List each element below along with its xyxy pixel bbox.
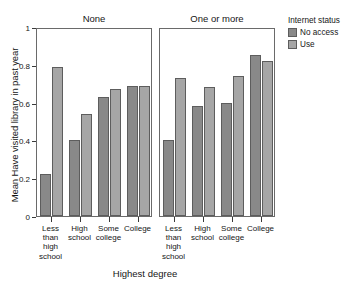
bar-use-1 <box>81 114 92 216</box>
bar-use-2 <box>233 76 244 216</box>
bar-use-1 <box>204 87 215 216</box>
x-axis-tick <box>51 217 52 222</box>
x-axis-title: Highest degree <box>0 268 290 279</box>
bar-no-access-0 <box>40 174 51 216</box>
y-axis-tick-label: 0 <box>26 213 30 222</box>
x-axis-tick <box>203 217 204 222</box>
x-axis-tick <box>138 217 139 222</box>
x-axis-label: Lessthanhighschool <box>159 224 188 261</box>
x-axis-label: College <box>123 224 152 233</box>
x-axis-label: Lessthanhighschool <box>36 224 65 261</box>
y-axis-tick-label: 1 <box>26 24 30 33</box>
bar-no-access-3 <box>127 86 138 216</box>
legend-item-use[interactable]: Use <box>288 39 350 50</box>
bar-use-3 <box>139 86 150 216</box>
bar-no-access-1 <box>192 106 203 216</box>
x-axis-none <box>36 217 152 222</box>
y-axis-tick-label: 0.2 <box>19 175 30 184</box>
x-axis-label: College <box>246 224 275 233</box>
legend-title: Internet status <box>288 16 350 25</box>
legend-label-use: Use <box>300 40 315 49</box>
panel-title-one-or-more: One or more <box>159 12 275 25</box>
y-axis-tick-label: 0.6 <box>19 99 30 108</box>
bar-use-0 <box>52 67 63 216</box>
y-axis-tick-label: 0.4 <box>19 137 30 146</box>
y-axis-title: Mean Have visited library in past year <box>9 30 23 220</box>
x-axis-tick <box>80 217 81 222</box>
x-axis-label: Highschool <box>65 224 94 242</box>
bar-no-access-3 <box>250 55 261 216</box>
chart-figure: Mean Have visited library in past year 0… <box>0 0 350 287</box>
legend-swatch-use <box>288 40 297 49</box>
bar-no-access-2 <box>221 103 232 216</box>
legend-swatch-no-access <box>288 28 297 37</box>
x-axis-labels-one-or-more: LessthanhighschoolHighschoolSomecollegeC… <box>159 224 275 268</box>
bar-use-0 <box>175 78 186 216</box>
x-axis-label: Highschool <box>188 224 217 242</box>
y-axis: 00.20.40.60.81 <box>22 28 36 217</box>
bar-use-2 <box>110 89 121 216</box>
plot-panel-none <box>36 28 152 217</box>
x-axis-tick <box>109 217 110 222</box>
bars-none <box>37 29 151 216</box>
x-axis-label: Somecollege <box>217 224 246 242</box>
x-axis-one-or-more <box>159 217 275 222</box>
bar-no-access-0 <box>163 140 174 216</box>
bar-no-access-2 <box>98 97 109 216</box>
bar-use-3 <box>262 61 273 216</box>
x-axis-tick <box>261 217 262 222</box>
bar-no-access-1 <box>69 140 80 216</box>
legend: Internet status No access Use <box>288 16 350 51</box>
bars-one-or-more <box>160 29 274 216</box>
plot-panel-one-or-more <box>159 28 275 217</box>
x-axis-label: Somecollege <box>94 224 123 242</box>
panel-title-none: None <box>36 12 152 25</box>
y-axis-tick-label: 0.8 <box>19 61 30 70</box>
legend-item-no-access[interactable]: No access <box>288 27 350 38</box>
x-axis-labels-none: LessthanhighschoolHighschoolSomecollegeC… <box>36 224 152 268</box>
x-axis-tick <box>174 217 175 222</box>
x-axis-tick <box>232 217 233 222</box>
legend-label-no-access: No access <box>300 28 338 37</box>
